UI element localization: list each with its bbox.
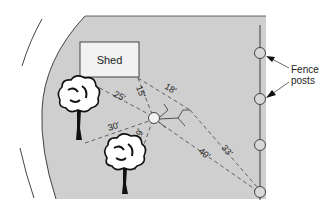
- fence-arrow-2: [272, 82, 289, 94]
- yard-diagram: Shed Fence posts 25' 15' 18' 30' 29' 40'…: [0, 0, 333, 207]
- arrowhead-1: [266, 56, 275, 62]
- outer-arc-bottom: [20, 148, 34, 198]
- outer-arc-top: [22, 19, 42, 66]
- reference-point: [149, 113, 160, 124]
- fence-label-line2: posts: [291, 75, 315, 86]
- fence-label-line1: Fence: [291, 64, 319, 75]
- shed-label: Shed: [97, 54, 123, 66]
- fence-post-2: [255, 94, 266, 105]
- fence-post-1: [255, 48, 266, 59]
- fence-post-4: [255, 187, 266, 198]
- arrowhead-2: [266, 90, 276, 98]
- fence-post-3: [255, 140, 266, 151]
